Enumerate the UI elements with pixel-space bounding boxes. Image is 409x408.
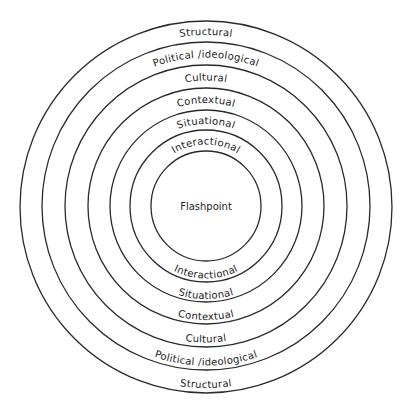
label-structural-bottom: Structural [180,377,233,390]
label-political-bottom: Political /ideological [154,348,259,367]
top-labels: Structural Political /ideological Cultur… [151,26,260,155]
flashpoint-label: Flashpoint [180,201,232,212]
label-contextual-top: Contextual [176,94,237,109]
concentric-levels-diagram: Structural Political /ideological Cultur… [0,0,409,408]
label-interactional-top: Interactional [170,136,243,156]
label-cultural-bottom: Cultural [185,332,227,345]
label-situational-bottom: Situational [177,286,234,301]
label-situational-top: Situational [175,115,236,131]
label-contextual-bottom: Contextual [177,308,235,322]
label-cultural-top: Cultural [184,71,228,84]
label-structural-top: Structural [179,26,234,39]
